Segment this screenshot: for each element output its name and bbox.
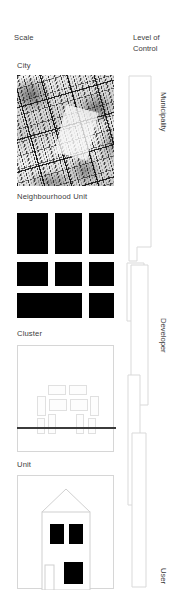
scale-label-unit: Unit	[17, 460, 31, 469]
block	[89, 262, 114, 286]
scale-label-city: City	[17, 61, 31, 70]
city-map-figure	[17, 75, 114, 186]
cluster-building	[69, 385, 87, 395]
block	[17, 293, 82, 318]
cluster-site-plan-figure	[17, 345, 114, 452]
block	[17, 262, 48, 286]
block	[17, 213, 48, 254]
control-label-municipality: Municipality	[159, 92, 168, 132]
block	[55, 262, 82, 286]
door-outline	[45, 565, 54, 590]
scale-label-neighbourhood-unit: Neighbourhood Unit	[17, 192, 87, 201]
lower-window	[64, 562, 83, 584]
cluster-building	[90, 396, 99, 416]
upper-window-left	[50, 524, 64, 544]
bracket-segment-user	[132, 433, 146, 587]
block	[55, 213, 82, 254]
cluster-building	[37, 396, 46, 416]
block	[89, 213, 114, 254]
bracket-segment-municipality	[129, 76, 151, 261]
house-elevation-figure	[17, 475, 114, 589]
cluster-building	[88, 418, 96, 434]
level-of-control-line-2: Control	[133, 44, 160, 55]
column-header-scale: Scale	[14, 33, 34, 42]
cluster-building	[70, 399, 88, 411]
level-of-control-bracket	[126, 75, 158, 589]
scale-label-cluster: Cluster	[17, 329, 42, 338]
cluster-street-line	[17, 427, 116, 429]
control-label-user: User	[159, 568, 168, 584]
cluster-building	[37, 418, 45, 434]
block	[89, 293, 114, 318]
cluster-building	[48, 414, 56, 434]
cluster-building	[48, 385, 66, 395]
cluster-building	[76, 414, 84, 434]
house-elevation-drawing	[18, 476, 115, 590]
cluster-building	[49, 399, 67, 411]
figure-ground-blocks-figure	[17, 213, 114, 318]
control-label-developer: Developer	[159, 318, 168, 353]
upper-window-right	[69, 524, 83, 544]
level-of-control-line-1: Level of	[133, 33, 160, 44]
roof-outline	[42, 489, 90, 512]
column-header-level-of-control: Level of Control	[133, 33, 160, 54]
